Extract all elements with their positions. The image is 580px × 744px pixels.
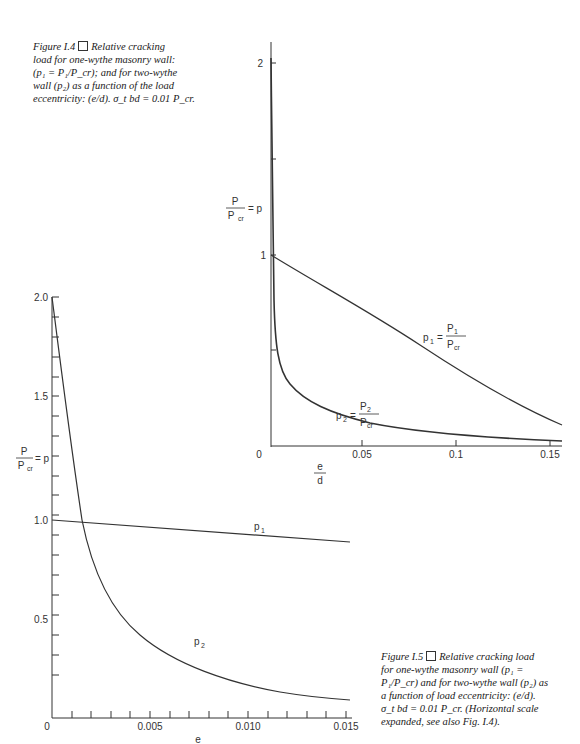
svg-text:P: P xyxy=(447,339,454,350)
svg-text:1: 1 xyxy=(454,328,458,335)
svg-text:P: P xyxy=(228,210,235,221)
i5-x-tick-label: 0.010 xyxy=(235,721,260,732)
svg-text:2: 2 xyxy=(343,416,347,423)
i4-x-tick-label: 0.1 xyxy=(449,449,463,460)
i4-p2-curve xyxy=(271,58,562,441)
svg-text:= p: = p xyxy=(248,203,263,214)
figure-i5-labels: 2.0 1.5 1.0 0.5 0 0.005 0.010 0.015 e P … xyxy=(16,292,359,744)
figure-i4-labels: 2 1 0 0.05 0.1 0.15 P P cr = p e d p 1 =… xyxy=(226,58,560,486)
svg-text:1: 1 xyxy=(430,338,434,345)
svg-text:p: p xyxy=(336,410,342,421)
i4-x-tick-label: 0.15 xyxy=(540,449,560,460)
i4-p1-label: p 1 = P 1 P cr xyxy=(423,323,466,351)
svg-text:P: P xyxy=(360,401,367,412)
i5-y-axis-label: P P cr = p xyxy=(16,446,50,472)
i5-y-tick-label: 1.0 xyxy=(34,515,48,526)
svg-text:2: 2 xyxy=(367,406,371,413)
svg-text:cr: cr xyxy=(454,344,461,351)
i5-x-tick-label: 0.005 xyxy=(137,721,162,732)
i5-x-axis-label: e xyxy=(195,734,201,744)
i5-x-tick-label: 0.015 xyxy=(333,721,358,732)
i5-p1-curve xyxy=(52,520,350,542)
i4-x-axis-label: e d xyxy=(314,461,326,486)
svg-text:p: p xyxy=(194,636,200,647)
i5-origin-label: 0 xyxy=(44,721,50,732)
svg-text:P: P xyxy=(232,196,239,207)
i4-x-tick-label: 0 xyxy=(256,449,262,460)
i4-p1-curve xyxy=(271,255,562,425)
i4-y-tick-label: 2 xyxy=(257,58,263,69)
svg-text:P: P xyxy=(447,323,454,334)
svg-text:=: = xyxy=(350,410,356,421)
i5-y-tick-label: 2.0 xyxy=(34,292,48,303)
svg-text:1: 1 xyxy=(261,527,265,534)
figure-i4-chart xyxy=(271,42,562,447)
svg-text:cr: cr xyxy=(367,422,374,429)
i5-y-tick-label: 1.5 xyxy=(34,391,48,402)
svg-text:p: p xyxy=(254,521,260,532)
svg-text:P: P xyxy=(360,417,367,428)
figures-canvas: 2 1 0 0.05 0.1 0.15 P P cr = p e d p 1 =… xyxy=(0,0,580,744)
i5-p2-label: p 2 xyxy=(194,636,205,649)
i5-p1-label: p 1 xyxy=(254,521,265,534)
i4-x-tick-label: 0.05 xyxy=(352,449,372,460)
svg-text:e: e xyxy=(317,461,323,472)
svg-text:cr: cr xyxy=(238,215,245,222)
i4-y-axis-label: P P cr = p xyxy=(226,196,263,222)
i5-y-tick-label: 0.5 xyxy=(34,614,48,625)
svg-text:p: p xyxy=(423,332,429,343)
svg-text:P: P xyxy=(21,446,28,457)
svg-text:= p: = p xyxy=(35,453,50,464)
i4-y-tick-label: 1 xyxy=(260,250,266,261)
svg-text:cr: cr xyxy=(27,465,34,472)
figure-i5-chart xyxy=(52,297,352,718)
svg-text:d: d xyxy=(317,475,323,486)
svg-text:2: 2 xyxy=(201,642,205,649)
svg-text:P: P xyxy=(18,460,25,471)
svg-text:=: = xyxy=(437,332,443,343)
i5-p2-curve xyxy=(52,297,350,700)
